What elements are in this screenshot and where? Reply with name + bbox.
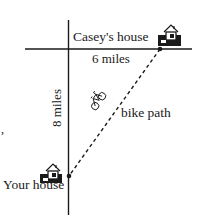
horizontal-distance-label: 6 miles <box>92 52 130 66</box>
casey-house-label: Casey's house <box>73 30 149 44</box>
casey-house-dot <box>158 47 163 52</box>
your-house-dot <box>67 174 72 179</box>
stray-comma-mark: , <box>1 122 4 136</box>
casey-house-icon <box>158 25 181 46</box>
your-house-label: Your house <box>3 178 64 192</box>
bike-path-diagram: Casey's house 6 miles 8 miles bike path … <box>0 0 200 216</box>
vertical-distance-label: 8 miles <box>50 89 64 127</box>
bicycle-icon <box>86 88 107 111</box>
bike-path-label: bike path <box>121 106 171 120</box>
